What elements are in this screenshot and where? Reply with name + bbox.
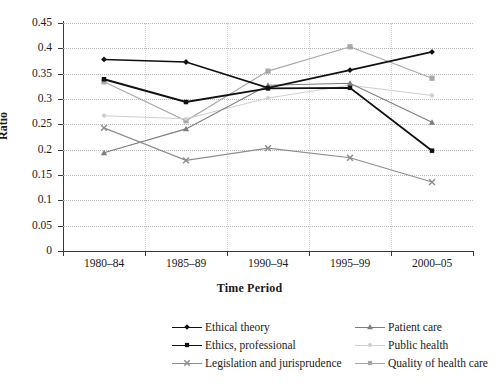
x-tick-label: 1980–84: [66, 257, 142, 269]
legend-item[interactable]: Ethics, professional: [172, 336, 352, 354]
legend-item[interactable]: Legislation and jurisprudence: [172, 354, 352, 372]
y-tick-label: 0.2: [8, 144, 52, 156]
y-tick-label: 0.35: [8, 68, 52, 80]
data-point-diamond: [101, 57, 107, 63]
y-tick-label: 0: [8, 245, 52, 257]
legend-key: [355, 357, 385, 369]
data-point-triangle: [183, 126, 189, 132]
x-tick-mark: [227, 251, 228, 256]
y-tick-label: 0.1: [8, 194, 52, 206]
data-point-square: [347, 44, 352, 49]
x-tick-label: 2000–05: [394, 257, 470, 269]
data-point-circle: [430, 93, 434, 97]
legend-label: Ethical theory: [205, 321, 270, 333]
data-point-square: [102, 77, 106, 81]
y-tick-label: 0.3: [8, 93, 52, 105]
data-point-x: [429, 179, 435, 185]
legend-column-right: Patient carePublic healthQuality of heal…: [355, 318, 499, 372]
data-point-diamond: [184, 324, 189, 329]
legend-item[interactable]: Ethical theory: [172, 318, 352, 336]
legend-marker-circle-icon: [363, 338, 377, 352]
plot-area: [63, 23, 473, 251]
legend-marker-x-icon: [180, 356, 194, 370]
series-layer: [63, 23, 473, 251]
y-tick-label: 0.05: [8, 220, 52, 232]
data-point-circle: [184, 117, 188, 121]
data-point-square: [185, 343, 189, 347]
data-point-diamond: [183, 59, 189, 65]
data-point-circle: [102, 114, 106, 118]
legend: Ethical theoryEthics, professionalLegisl…: [0, 318, 499, 378]
legend-label: Ethics, professional: [205, 339, 296, 351]
data-point-square: [430, 148, 434, 152]
legend-label: Public health: [388, 339, 448, 351]
legend-column-left: Ethical theoryEthics, professionalLegisl…: [172, 318, 352, 372]
legend-key: [172, 357, 202, 369]
data-point-square: [368, 361, 372, 365]
x-axis-title: Time Period: [0, 281, 499, 296]
data-point-square: [348, 86, 352, 90]
legend-item[interactable]: Patient care: [355, 318, 499, 336]
y-tick-label: 0.15: [8, 169, 52, 181]
y-tick-label: 0.45: [8, 17, 52, 29]
legend-label: Patient care: [388, 321, 442, 333]
legend-key: [172, 321, 202, 333]
data-point-circle: [266, 96, 270, 100]
x-tick-mark: [391, 251, 392, 256]
legend-item[interactable]: Public health: [355, 336, 499, 354]
x-tick-mark: [309, 251, 310, 256]
legend-label: Quality of health care: [388, 357, 488, 369]
legend-marker-square-icon: [363, 356, 377, 370]
data-point-x: [184, 360, 189, 365]
legend-label: Legislation and jurisprudence: [205, 357, 342, 369]
legend-key: [355, 339, 385, 351]
data-point-square: [184, 100, 188, 104]
series-line: [104, 128, 432, 182]
y-tick-label: 0.4: [8, 42, 52, 54]
data-point-triangle: [429, 119, 435, 125]
legend-key: [172, 339, 202, 351]
data-point-diamond: [429, 49, 435, 55]
x-tick-mark: [473, 251, 474, 256]
legend-key: [355, 321, 385, 333]
series-legislation-and-jurisprudence: [101, 125, 435, 185]
data-point-triangle: [367, 324, 373, 329]
data-point-square: [429, 76, 434, 81]
x-tick-label: 1985–89: [148, 257, 224, 269]
y-tick-label: 0.25: [8, 118, 52, 130]
legend-item[interactable]: Quality of health care: [355, 354, 499, 372]
legend-marker-diamond-icon: [180, 320, 194, 334]
legend-marker-square-icon: [180, 338, 194, 352]
data-point-square: [265, 69, 270, 74]
x-tick-mark: [145, 251, 146, 256]
legend-marker-triangle-icon: [363, 320, 377, 334]
data-point-diamond: [347, 67, 353, 73]
data-point-circle: [368, 343, 372, 347]
line-chart: Ratio 00.050.10.150.20.250.30.350.40.45 …: [0, 0, 499, 388]
data-point-x: [101, 125, 107, 131]
x-tick-label: 1995–99: [312, 257, 388, 269]
x-tick-mark: [63, 251, 64, 256]
x-axis-line: [63, 251, 474, 252]
x-tick-label: 1990–94: [230, 257, 306, 269]
